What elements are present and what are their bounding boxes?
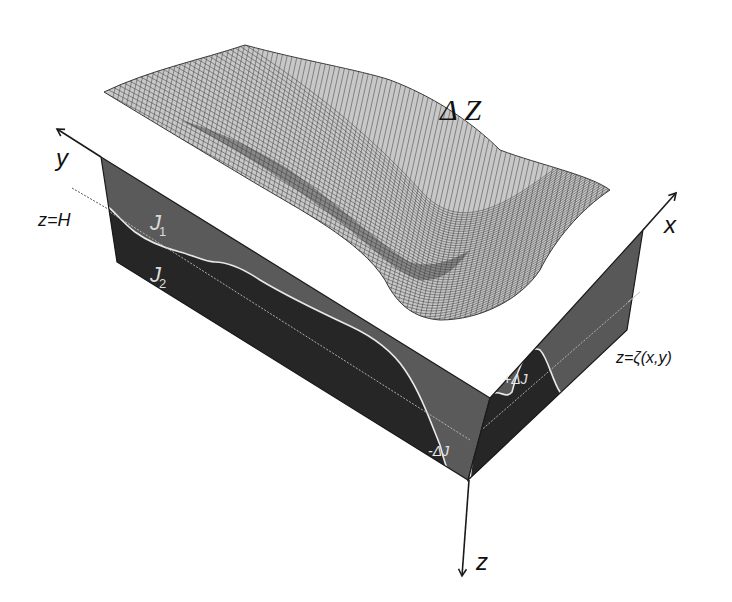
delta-z-label: Δ Z [439,93,482,126]
x-axis-label: x [663,211,677,238]
reference-depth-label: z=H [37,210,72,230]
interface-label: z=ζ(x,y) [615,349,672,367]
positive-perturbation-label: +ΔJ [503,371,529,387]
svg-text:2: 2 [159,276,166,291]
negative-perturbation-label: -ΔJ [428,443,450,459]
y-axis-label: y [54,144,70,171]
z-axis-label: z [475,548,488,575]
gravity-model-diagram: Δ Z y x z z=H z=ζ(x,y) J 1 J 2 +ΔJ -ΔJ [0,0,732,602]
reference-depth-line-ext-left [72,188,108,209]
svg-text:1: 1 [159,224,166,239]
z-axis-arrow [462,480,469,576]
